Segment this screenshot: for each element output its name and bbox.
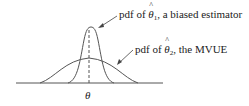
arrowhead-estimator2 (117, 59, 122, 65)
theta-axis-label: θ (85, 89, 90, 101)
label-biased-estimator: pdf of θ1, a biased estimator (119, 9, 242, 22)
label-prefix: pdf of (135, 43, 164, 55)
arrowhead-estimator1 (98, 23, 104, 28)
label-mvue: pdf of θ2, the MVUE (135, 44, 227, 57)
label-suffix: , a biased estimator (157, 8, 242, 20)
biased-pdf-curve (68, 27, 114, 83)
diagram-canvas: pdf of θ1, a biased estimator pdf of θ2,… (0, 0, 249, 106)
label-suffix: , the MVUE (173, 43, 227, 55)
arrow-estimator2 (119, 50, 133, 63)
label-prefix: pdf of (119, 8, 148, 20)
theta-hat-symbol: θ (148, 8, 153, 20)
theta-hat-symbol: θ (164, 43, 169, 55)
